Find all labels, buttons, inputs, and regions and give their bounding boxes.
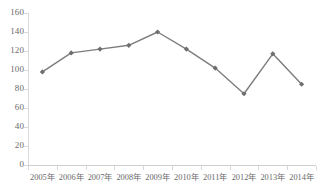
series-data-point [126, 43, 131, 48]
series-line [42, 32, 301, 94]
series-plot [0, 0, 324, 190]
series-data-point [97, 47, 102, 52]
series-markers [40, 29, 304, 96]
line-chart: 020406080100120140160 2005年2006年2007年200… [0, 0, 324, 190]
